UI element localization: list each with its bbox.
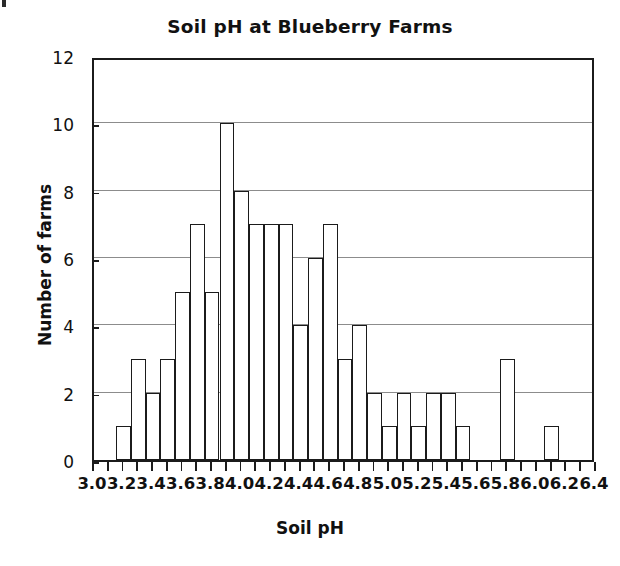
x-axis-tick-mark: [225, 462, 227, 471]
histogram-bar: [397, 393, 412, 460]
y-axis-tick-mark: [92, 193, 99, 195]
y-axis-tick-label: 4: [28, 317, 74, 337]
y-axis-tick-mark: [92, 395, 99, 397]
histogram-bar: [146, 393, 161, 460]
x-axis-tick-mark: [313, 462, 315, 471]
histogram-bar: [249, 224, 264, 460]
x-axis-tick-mark: [520, 462, 522, 471]
x-axis-tick-mark: [328, 462, 330, 471]
x-axis-tick-mark: [505, 462, 507, 471]
histogram-bar: [279, 224, 294, 460]
x-axis-tick-mark: [373, 462, 375, 471]
histogram-bar: [131, 359, 146, 460]
x-axis-tick-mark: [195, 462, 197, 471]
histogram-bar: [441, 393, 456, 460]
x-axis-tick-mark: [151, 462, 153, 471]
histogram-bar: [367, 393, 382, 460]
y-axis-tick-mark: [92, 125, 99, 127]
histogram-bar: [190, 224, 205, 460]
histogram-bar: [175, 292, 190, 460]
y-axis-tick-mark: [92, 260, 99, 262]
x-axis-tick-mark: [299, 462, 301, 471]
histogram-bar: [382, 426, 397, 460]
histogram-bar: [308, 258, 323, 460]
histogram-bar: [220, 123, 235, 460]
x-axis-tick-mark: [387, 462, 389, 471]
histogram-bar: [264, 224, 279, 460]
histogram-bar: [338, 359, 353, 460]
x-axis-tick-mark: [254, 462, 256, 471]
plot-area: [92, 58, 594, 462]
x-axis-tick-mark: [343, 462, 345, 471]
x-axis-tick-mark: [240, 462, 242, 471]
x-axis-tick-mark: [417, 462, 419, 471]
histogram-bar: [234, 191, 249, 460]
histogram-bar: [323, 224, 338, 460]
x-axis-tick-marks: [92, 462, 594, 473]
x-axis-tick-mark: [535, 462, 537, 471]
y-axis-tick-marks: [92, 58, 102, 462]
y-axis-tick-labels: 024681012: [28, 58, 74, 462]
x-axis-tick-labels: 3.03.23.43.63.84.04.24.44.64.85.05.25.45…: [92, 474, 594, 498]
x-axis-tick-mark: [491, 462, 493, 471]
x-axis-tick-mark: [269, 462, 271, 471]
gridline: [94, 324, 592, 325]
x-axis-tick-mark: [166, 462, 168, 471]
gridline: [94, 257, 592, 258]
x-axis-tick-mark: [136, 462, 138, 471]
x-axis-tick-mark: [358, 462, 360, 471]
histogram-bar: [352, 325, 367, 460]
x-axis-tick-mark: [432, 462, 434, 471]
x-axis-tick-mark: [594, 462, 596, 471]
y-axis-tick-mark: [92, 327, 99, 329]
x-axis-tick-mark: [564, 462, 566, 471]
x-axis-title: Soil pH: [0, 518, 620, 538]
x-axis-tick-mark: [550, 462, 552, 471]
y-axis-tick-label: 2: [28, 385, 74, 405]
y-axis-tick-label: 8: [28, 183, 74, 203]
x-axis-tick-mark: [92, 462, 94, 471]
x-axis-tick-mark: [122, 462, 124, 471]
y-axis-tick-label: 10: [28, 115, 74, 135]
gridline: [94, 122, 592, 123]
histogram-bar: [426, 393, 441, 460]
histogram-bar: [293, 325, 308, 460]
histogram-bar: [456, 426, 471, 460]
histogram-bar: [205, 292, 220, 460]
gridline: [94, 190, 592, 191]
y-axis-tick-label: 6: [28, 250, 74, 270]
x-axis-tick-mark: [210, 462, 212, 471]
x-axis-tick-mark: [284, 462, 286, 471]
histogram-bar: [116, 426, 131, 460]
scan-artifact: [2, 0, 6, 7]
y-axis-tick-label: 0: [28, 452, 74, 472]
x-axis-tick-label: 6.4: [570, 474, 618, 493]
x-axis-tick-mark: [402, 462, 404, 471]
histogram-bar: [160, 359, 175, 460]
x-axis-tick-mark: [461, 462, 463, 471]
page-title: Soil pH at Blueberry Farms: [0, 16, 620, 37]
histogram-bar: [544, 426, 559, 460]
histogram-bar: [411, 426, 426, 460]
x-axis-tick-mark: [579, 462, 581, 471]
x-axis-tick-mark: [446, 462, 448, 471]
histogram-bar: [500, 359, 515, 460]
histogram-figure: Soil pH at Blueberry Farms Number of far…: [0, 0, 620, 566]
y-axis-tick-label: 12: [28, 48, 74, 68]
x-axis-tick-mark: [107, 462, 109, 471]
x-axis-tick-mark: [476, 462, 478, 471]
x-axis-tick-mark: [181, 462, 183, 471]
